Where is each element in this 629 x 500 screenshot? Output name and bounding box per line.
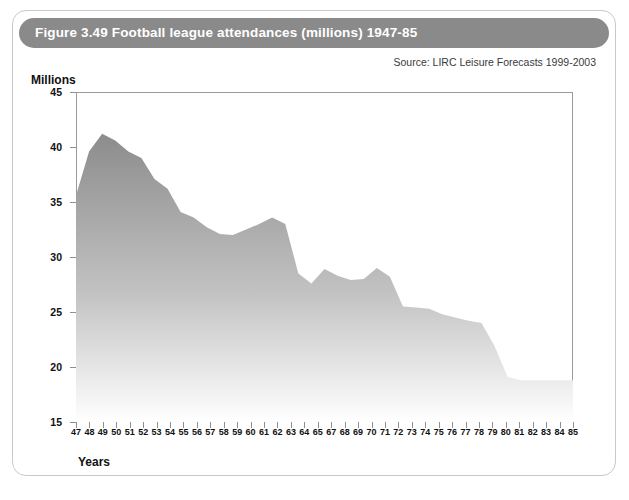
x-tick-label: 51 <box>125 427 135 437</box>
x-tick-label: 58 <box>219 427 229 437</box>
x-tick-label: 80 <box>501 427 511 437</box>
x-tick-label: 71 <box>380 427 390 437</box>
x-tick-label: 70 <box>366 427 376 437</box>
y-tick-mark <box>70 257 76 258</box>
y-axis-title: Millions <box>31 73 76 87</box>
figure-page: Figure 3.49 Football league attendances … <box>0 0 629 500</box>
y-tick-label: 35 <box>34 196 62 208</box>
y-tick-mark <box>70 202 76 203</box>
x-tick-label: 69 <box>353 427 363 437</box>
x-tick-label: 79 <box>487 427 497 437</box>
y-tick-label: 20 <box>34 361 62 373</box>
x-tick-label: 84 <box>555 427 565 437</box>
y-tick-label: 45 <box>34 86 62 98</box>
x-tick-label: 78 <box>474 427 484 437</box>
x-tick-label: 82 <box>528 427 538 437</box>
x-tick-label: 65 <box>313 427 323 437</box>
x-tick-label: 50 <box>111 427 121 437</box>
x-tick-label: 54 <box>165 427 175 437</box>
x-tick-label: 55 <box>178 427 188 437</box>
x-tick-label: 68 <box>340 427 350 437</box>
y-tick-label: 25 <box>34 306 62 318</box>
x-tick-label: 61 <box>259 427 269 437</box>
x-tick-label: 83 <box>541 427 551 437</box>
x-tick-label: 56 <box>192 427 202 437</box>
x-tick-label: 75 <box>434 427 444 437</box>
figure-source-note: Source: LIRC Leisure Forecasts 1999-2003 <box>393 56 596 68</box>
plot-area <box>76 92 573 422</box>
figure-title: Figure 3.49 Football league attendances … <box>35 25 575 40</box>
y-tick-mark <box>70 367 76 368</box>
y-tick-mark <box>70 92 76 93</box>
x-tick-label: 77 <box>461 427 471 437</box>
attendance-area-path <box>76 134 573 422</box>
x-tick-label: 72 <box>393 427 403 437</box>
y-tick-label: 30 <box>34 251 62 263</box>
x-tick-label: 74 <box>420 427 430 437</box>
x-tick-label: 76 <box>447 427 457 437</box>
y-tick-label: 15 <box>34 416 62 428</box>
area-chart-svg <box>76 92 573 422</box>
x-tick-label: 85 <box>568 427 578 437</box>
x-tick-label: 59 <box>232 427 242 437</box>
y-tick-mark <box>70 312 76 313</box>
x-tick-label: 49 <box>98 427 108 437</box>
x-tick-label: 47 <box>71 427 81 437</box>
x-tick-label: 53 <box>152 427 162 437</box>
x-tick-label: 48 <box>84 427 94 437</box>
x-axis-title: Years <box>78 455 110 469</box>
x-tick-label: 62 <box>272 427 282 437</box>
x-tick-label: 63 <box>286 427 296 437</box>
x-tick-label: 73 <box>407 427 417 437</box>
x-tick-label: 60 <box>246 427 256 437</box>
x-tick-label: 64 <box>299 427 309 437</box>
x-tick-label: 81 <box>514 427 524 437</box>
x-tick-label: 67 <box>326 427 336 437</box>
x-tick-label: 57 <box>205 427 215 437</box>
y-tick-label: 40 <box>34 141 62 153</box>
y-tick-mark <box>70 147 76 148</box>
x-tick-label: 52 <box>138 427 148 437</box>
